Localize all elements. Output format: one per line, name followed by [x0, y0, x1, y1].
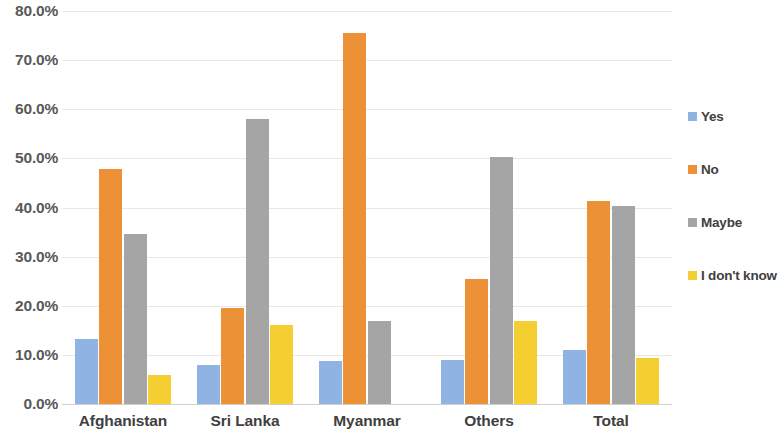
bar-slot — [123, 11, 147, 404]
bar-group — [550, 11, 672, 404]
bar-group — [306, 11, 428, 404]
chart-legend: YesNoMaybeI don't know — [688, 90, 782, 302]
bar — [221, 308, 244, 404]
gridline — [62, 404, 672, 405]
legend-swatch-icon — [688, 112, 697, 121]
bar-slots — [197, 11, 293, 404]
bar-slot — [441, 11, 465, 404]
bar-groups — [62, 11, 672, 404]
bar-slot — [563, 11, 587, 404]
legend-label: Yes — [701, 109, 724, 124]
x-axis-tick-label: Afghanistan — [62, 412, 184, 430]
legend-swatch-icon — [688, 218, 697, 227]
bar-group — [184, 11, 306, 404]
y-axis-tick-label: 40.0% — [0, 199, 58, 217]
bar-slot — [367, 11, 391, 404]
y-axis-tick-label: 50.0% — [0, 149, 58, 167]
bar — [368, 321, 391, 404]
bar-slot — [611, 11, 635, 404]
bar — [148, 375, 171, 404]
bar-slots — [319, 11, 415, 404]
bar — [270, 325, 293, 404]
bar-slots — [441, 11, 537, 404]
bar — [319, 361, 342, 404]
bar-slot — [75, 11, 99, 404]
bar-slot — [391, 11, 415, 404]
legend-swatch-icon — [688, 271, 697, 280]
legend-item[interactable]: No — [688, 143, 782, 196]
y-axis-tick-label: 10.0% — [0, 346, 58, 364]
bar — [587, 201, 610, 404]
bar-slot — [197, 11, 221, 404]
legend-item[interactable]: Yes — [688, 90, 782, 143]
bar — [246, 119, 269, 404]
bar-slot — [513, 11, 537, 404]
bar-slots — [75, 11, 171, 404]
bar-slot — [587, 11, 611, 404]
bar — [197, 365, 220, 404]
bar — [465, 279, 488, 404]
bar-slot — [245, 11, 269, 404]
bar-slot — [465, 11, 489, 404]
legend-item[interactable]: I don't know — [688, 249, 782, 302]
bar — [124, 234, 147, 404]
bar — [343, 33, 366, 404]
bar-group — [62, 11, 184, 404]
bar — [612, 206, 635, 404]
bar — [490, 157, 513, 404]
legend-label: Maybe — [701, 215, 742, 230]
bar — [441, 360, 464, 404]
x-axis-tick-label: Sri Lanka — [184, 412, 306, 430]
bar-slot — [489, 11, 513, 404]
bar — [514, 321, 537, 405]
legend-label: I don't know — [701, 268, 777, 283]
y-axis-tick-label: 70.0% — [0, 51, 58, 69]
bar-slot — [635, 11, 659, 404]
bar — [636, 358, 659, 404]
y-axis-tick-label: 60.0% — [0, 100, 58, 118]
bar-slot — [221, 11, 245, 404]
y-axis-tick-label: 80.0% — [0, 2, 58, 20]
y-axis-tick-label: 20.0% — [0, 297, 58, 315]
y-axis-tick-label: 30.0% — [0, 248, 58, 266]
bar-slots — [563, 11, 659, 404]
legend-label: No — [701, 162, 719, 177]
bar — [99, 169, 122, 404]
x-axis-tick-label: Others — [428, 412, 550, 430]
grouped-bar-chart: 80.0%70.0%60.0%50.0%40.0%30.0%20.0%10.0%… — [0, 0, 782, 437]
bar-slot — [319, 11, 343, 404]
bar — [75, 339, 98, 404]
plot-area — [62, 11, 672, 404]
bar-slot — [147, 11, 171, 404]
x-axis-tick-label: Myanmar — [306, 412, 428, 430]
y-axis-tick-label: 0.0% — [0, 395, 58, 413]
legend-item[interactable]: Maybe — [688, 196, 782, 249]
bar-slot — [343, 11, 367, 404]
bar-slot — [99, 11, 123, 404]
x-axis-tick-label: Total — [550, 412, 672, 430]
bar-slot — [269, 11, 293, 404]
legend-swatch-icon — [688, 165, 697, 174]
bar — [563, 350, 586, 404]
bar-group — [428, 11, 550, 404]
